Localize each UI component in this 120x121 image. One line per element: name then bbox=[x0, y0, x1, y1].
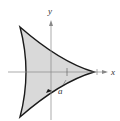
a-label: a bbox=[58, 86, 63, 96]
y-axis-label: y bbox=[47, 6, 52, 16]
deltoid-figure: x y a bbox=[0, 0, 120, 121]
x-axis-label: x bbox=[110, 67, 115, 77]
x-axis-arrow-icon bbox=[102, 70, 108, 74]
y-axis-arrow-icon bbox=[49, 20, 53, 26]
